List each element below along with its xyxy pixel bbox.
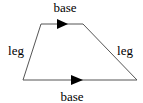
trapezoid-diagram: base leg leg base	[0, 0, 143, 103]
parallel-arrow-bottom-icon	[71, 75, 83, 85]
right-leg-label: leg	[117, 43, 133, 58]
parallel-arrow-top-icon	[57, 19, 68, 29]
bottom-base-label: base	[60, 89, 83, 103]
top-base-label: base	[53, 0, 76, 15]
left-leg-label: leg	[8, 43, 24, 58]
